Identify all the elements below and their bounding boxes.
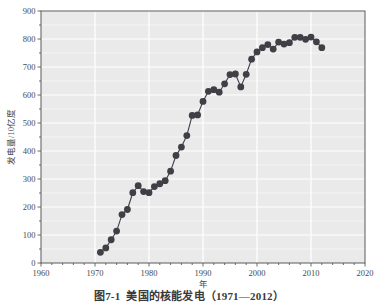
- x-tick-label: 2010: [303, 268, 320, 278]
- data-point: [264, 41, 271, 48]
- y-tick-label: 400: [23, 146, 36, 156]
- y-tick-label: 800: [23, 34, 36, 44]
- data-point: [135, 182, 142, 189]
- data-point: [162, 177, 169, 184]
- figure-caption-text: 美国的核能发电（1971—2012）: [126, 290, 284, 302]
- x-axis-ticks: [41, 263, 365, 267]
- data-point: [308, 34, 315, 41]
- data-point: [173, 152, 180, 159]
- y-tick-label: 100: [23, 230, 36, 240]
- y-tick-label: 200: [23, 202, 36, 212]
- y-tick-label: 500: [23, 118, 36, 128]
- data-point: [178, 144, 185, 151]
- data-point: [108, 236, 115, 243]
- data-point: [248, 56, 255, 63]
- data-point: [113, 228, 120, 235]
- data-point: [286, 39, 293, 46]
- y-tick-label: 300: [23, 174, 36, 184]
- data-point: [102, 244, 109, 251]
- data-point: [237, 83, 244, 90]
- data-point: [318, 44, 325, 51]
- x-tick-label: 1980: [141, 268, 158, 278]
- y-tick-label: 0: [31, 258, 35, 268]
- data-point: [313, 38, 320, 45]
- data-point: [119, 211, 126, 218]
- data-point: [200, 98, 207, 105]
- y-tick-label: 700: [23, 62, 36, 72]
- data-point: [243, 71, 250, 78]
- data-point: [124, 206, 131, 213]
- x-tick-label: 1960: [33, 268, 50, 278]
- x-tick-label: 2000: [249, 268, 266, 278]
- data-point: [194, 111, 201, 118]
- data-point: [167, 168, 174, 175]
- data-point: [129, 189, 136, 196]
- x-tick-label: 2020: [357, 268, 374, 278]
- y-tick-label: 600: [23, 90, 36, 100]
- data-point: [183, 132, 190, 139]
- figure-container: 0100200300400500600700800900 19601970198…: [0, 0, 378, 302]
- data-point: [97, 249, 104, 256]
- data-point: [146, 189, 153, 196]
- nuclear-generation-chart: 0100200300400500600700800900 19601970198…: [0, 0, 378, 302]
- figure-caption: 图7-1美国的核能发电（1971—2012）: [0, 288, 378, 302]
- x-tick-label: 1970: [87, 268, 104, 278]
- figure-caption-number: 图7-1: [94, 290, 120, 302]
- y-axis-ticks: [38, 11, 42, 263]
- y-axis-title: 发电量/10亿度: [6, 109, 16, 165]
- x-axis-tick-labels: 1960197019801990200020102020: [33, 268, 374, 278]
- data-point: [254, 48, 261, 55]
- y-axis-tick-labels: 0100200300400500600700800900: [23, 6, 36, 268]
- y-tick-label: 900: [23, 6, 36, 16]
- data-point: [232, 71, 239, 78]
- data-point: [270, 46, 277, 53]
- x-tick-label: 1990: [195, 268, 212, 278]
- data-point: [221, 80, 228, 87]
- data-point: [216, 89, 223, 96]
